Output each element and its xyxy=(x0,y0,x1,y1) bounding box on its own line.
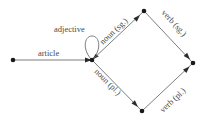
label-article: article xyxy=(38,48,59,58)
label-noun-pl: noun (pl.) xyxy=(93,66,124,97)
labels: article adjective noun (sg.) noun (pl.) … xyxy=(38,8,189,115)
node-start xyxy=(11,58,16,63)
label-adjective: adjective xyxy=(54,24,85,34)
label-noun-sg: noun (sg.) xyxy=(98,16,130,47)
label-verb-sg: verb (sg.) xyxy=(160,8,190,39)
node-mid xyxy=(90,58,95,63)
edges xyxy=(13,11,193,111)
node-top xyxy=(142,9,147,14)
arrowhead-noun-sg-icon xyxy=(134,15,141,22)
label-verb-pl: verb (pl.) xyxy=(158,85,188,114)
node-bottom xyxy=(140,109,145,114)
fsa-diagram: article adjective noun (sg.) noun (pl.) … xyxy=(0,0,206,122)
node-right xyxy=(191,61,196,66)
